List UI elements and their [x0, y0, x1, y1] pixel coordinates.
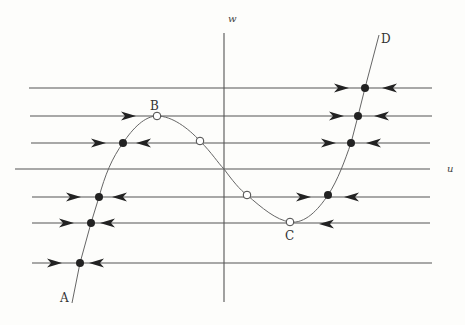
point-label-a: A: [59, 291, 69, 305]
point-label-c: C: [285, 229, 294, 243]
unstable-point-icon: [153, 112, 161, 120]
flow-arrows: [47, 84, 397, 268]
unstable-point-icon: [243, 191, 251, 199]
stable-point-icon: [324, 191, 332, 199]
u-axis-label: u: [447, 163, 453, 174]
w-axis-label: w: [228, 13, 237, 24]
unstable-point-icon: [286, 218, 294, 226]
stable-point-icon: [354, 112, 362, 120]
stable-point-icon: [87, 219, 95, 227]
stable-point-icon: [361, 84, 369, 92]
stable-point-icon: [76, 259, 84, 267]
arrow-left-icon: [319, 220, 334, 229]
stable-point-icon: [119, 139, 127, 147]
point-label-d: D: [381, 32, 391, 46]
horizontal-trajectories: [29, 88, 432, 263]
equilibrium-points: [76, 84, 369, 267]
stable-point-icon: [347, 139, 355, 147]
diagram-canvas: u w ABCD: [0, 0, 465, 325]
phase-plane-diagram: u w ABCD: [0, 0, 465, 325]
point-label-b: B: [150, 99, 159, 113]
stable-point-icon: [95, 193, 103, 201]
unstable-point-icon: [196, 137, 204, 145]
